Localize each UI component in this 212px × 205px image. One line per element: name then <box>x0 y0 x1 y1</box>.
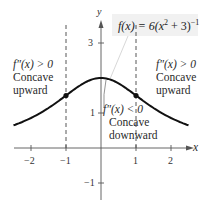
tick-label-y-minus-1: −1 <box>84 177 95 188</box>
tick-label-y-1: 1 <box>90 107 95 118</box>
inflection-point-left <box>63 93 68 98</box>
annotation-center: f″(x) < 0 Concave downward <box>103 103 158 142</box>
x-axis-label: x <box>193 141 198 154</box>
function-label: f(x) = 6(x2 + 3)−1 <box>118 18 199 34</box>
tick-label-x-1: 1 <box>133 155 138 166</box>
y-axis-label: y <box>97 5 101 18</box>
annotation-right: f″(x) > 0 Concave upward <box>156 58 196 97</box>
tick-label-x-minus-2: −2 <box>24 155 35 166</box>
formula-leader-line <box>110 36 128 79</box>
y-axis-arrow-icon <box>99 20 104 28</box>
tick-label-y-3: 3 <box>88 37 93 48</box>
annotation-left: f″(x) > 0 Concave upward <box>13 58 53 97</box>
inflection-point-right <box>133 93 138 98</box>
tick-label-x-2: 2 <box>168 155 173 166</box>
chart-figure: f(x) = 6(x2 + 3)−1 x y −2 −1 1 2 3 1 −1 … <box>0 0 212 205</box>
tick-label-x-minus-1: −1 <box>60 155 71 166</box>
